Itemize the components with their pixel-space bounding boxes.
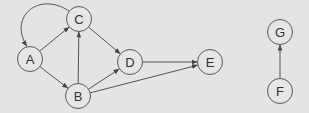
node-label: E — [206, 55, 215, 70]
node-e: E — [198, 50, 223, 75]
node-f: F — [268, 79, 293, 104]
edge-a-to-b — [40, 67, 68, 89]
node-label: D — [125, 55, 134, 70]
node-label: B — [74, 89, 83, 104]
node-a: A — [18, 47, 43, 72]
edges — [21, 4, 280, 93]
graph-diagram: ABCDEFG — [0, 0, 309, 113]
edge-b-to-e — [90, 65, 198, 93]
node-d: D — [118, 50, 143, 75]
node-c: C — [67, 7, 92, 32]
node-b: B — [66, 84, 91, 109]
node-label: F — [276, 84, 284, 99]
node-label: A — [26, 52, 35, 67]
node-label: C — [74, 12, 83, 27]
nodes: ABCDEFG — [18, 7, 293, 109]
edge-c-to-d — [89, 27, 121, 54]
node-label: G — [275, 25, 285, 40]
edge-b-to-c — [78, 31, 79, 83]
edge-c-to-a — [21, 4, 69, 47]
edge-a-to-c — [40, 27, 70, 51]
node-g: G — [268, 20, 293, 45]
